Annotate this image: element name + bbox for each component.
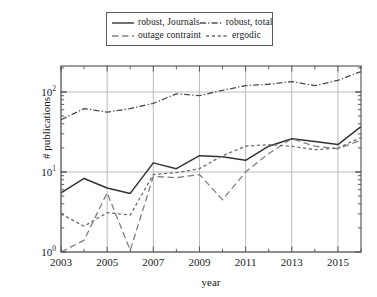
series-line-robust-total	[61, 72, 361, 120]
xtick-label-2013: 2013	[272, 256, 312, 268]
xtick-label-2011: 2011	[226, 256, 266, 268]
xtick-label-2005: 2005	[87, 256, 127, 268]
publications-line-chart-figure: robust, Journals robust, total outage co…	[0, 0, 377, 297]
x-axis-title: year	[61, 276, 361, 288]
data-series-layer	[61, 72, 361, 252]
series-line-ergodic	[61, 137, 361, 226]
series-line-robust-journals	[61, 127, 361, 194]
plot-area-container: 102 101 100 # publications year 20032005…	[0, 0, 377, 297]
chart-canvas	[0, 0, 377, 297]
plot-frame	[61, 66, 361, 252]
axis-ticks	[61, 66, 361, 252]
horizontal-gridlines	[61, 92, 361, 252]
xtick-label-2015: 2015	[318, 256, 358, 268]
y-axis-title: # publications	[40, 68, 52, 188]
xtick-label-2009: 2009	[179, 256, 219, 268]
xtick-label-2007: 2007	[133, 256, 173, 268]
xtick-label-2003: 2003	[41, 256, 81, 268]
vertical-gridlines	[61, 66, 338, 252]
